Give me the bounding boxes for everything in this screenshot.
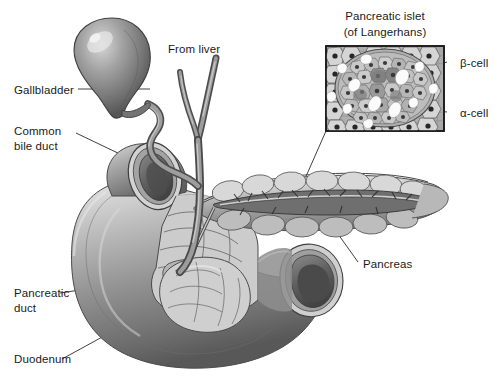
illustration-canvas — [0, 0, 498, 378]
inset-title-line2: (of Langerhans) — [318, 25, 452, 39]
label-pancreas: Pancreas — [363, 257, 412, 271]
label-common-bile-duct-line2: bile duct — [14, 139, 58, 153]
label-common-bile-duct-line1: Common — [14, 124, 61, 138]
anatomical-figure: Pancreatic islet (of Langerhans) β-cell … — [0, 0, 498, 378]
duodenum-organ — [72, 136, 343, 368]
pancreatic-islet-inset — [324, 46, 444, 134]
label-alpha-cell: α-cell — [460, 106, 488, 120]
inset-title-line1: Pancreatic islet — [318, 9, 452, 23]
gallbladder-organ — [74, 18, 150, 118]
label-beta-cell: β-cell — [460, 56, 488, 70]
label-duodenum: Duodenum — [14, 352, 71, 366]
label-from-liver: From liver — [168, 42, 220, 56]
label-gallbladder: Gallbladder — [14, 83, 74, 97]
label-pancreatic-duct-line2: duct — [14, 301, 36, 315]
label-pancreatic-duct-line1: Pancreatic — [14, 286, 69, 300]
